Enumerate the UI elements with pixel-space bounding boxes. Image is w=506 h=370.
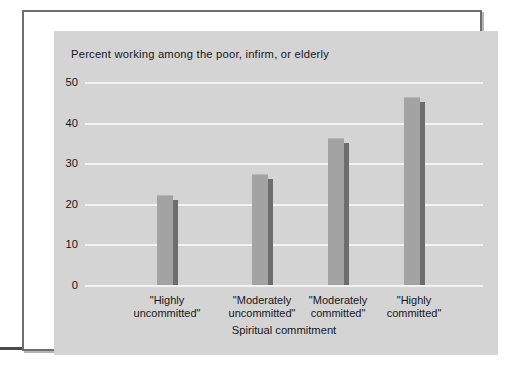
xtick-label-moderately-uncommitted: "Moderately uncommitted" [229,294,296,319]
ytick-label-10: 10 [66,238,78,250]
bar-highly-uncommitted[interactable] [157,195,173,285]
bar-highly-committed[interactable] [404,97,420,285]
bar-moderately-committed[interactable] [328,138,344,285]
chart-panel: Percent working among the poor, infirm, … [54,31,498,355]
xtick-label-line-1: "Moderately [309,294,367,307]
xtick-label-line-1: "Highly [387,294,442,307]
bar-shadow-moderately-uncommitted [268,179,273,285]
bar-shadow-highly-uncommitted [173,200,178,285]
ytick-label-40: 40 [66,117,78,129]
figure-frame: Percent working among the poor, infirm, … [22,10,482,351]
bar-moderately-uncommitted[interactable] [252,174,268,285]
ytick-label-20: 20 [66,198,78,210]
chart-title: Percent working among the poor, infirm, … [71,48,329,60]
xtick-label-line-2: committed" [387,307,442,320]
xtick-label-highly-uncommitted: "Highly uncommitted" [134,294,201,319]
xtick-label-moderately-committed: "Moderately committed" [309,294,367,319]
plot-area: 50 40 30 20 10 0 [85,82,483,285]
ytick-label-0: 0 [72,279,78,291]
bar-shadow-moderately-committed [344,143,349,285]
xtick-label-line-1: "Moderately [229,294,296,307]
xtick-label-line-2: uncommitted" [229,307,296,320]
ytick-label-50: 50 [66,76,78,88]
bar-shadow-highly-committed [420,102,425,285]
xtick-label-line-2: uncommitted" [134,307,201,320]
gridline-50: 50 [85,82,483,84]
xtick-label-line-2: committed" [309,307,367,320]
ytick-label-30: 30 [66,157,78,169]
xtick-label-highly-committed: "Highly committed" [387,294,442,319]
xtick-label-line-1: "Highly [134,294,201,307]
gridline-0: 0 [85,285,483,287]
x-axis-title: Spiritual commitment [232,324,336,336]
page-edge-mark [0,347,23,350]
